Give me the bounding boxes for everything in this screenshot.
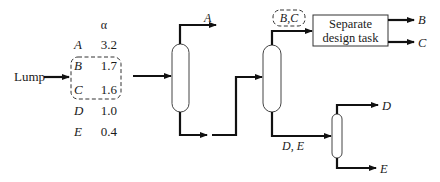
- column3-bottoms-pipe: [337, 158, 376, 168]
- alpha-header: α: [101, 18, 108, 32]
- component-name-a: A: [73, 37, 82, 52]
- component-alpha-c: 1.6: [101, 82, 118, 97]
- component-alpha-e: 0.4: [101, 124, 118, 139]
- feed-label: Lump: [14, 69, 45, 84]
- component-name-e: E: [73, 124, 82, 139]
- task-box-line1: Separate: [329, 17, 372, 31]
- component-name-b: B: [74, 58, 82, 73]
- column3-overhead-pipe: [337, 105, 378, 114]
- column2-overhead-pipe: [272, 31, 312, 45]
- column-3: [332, 114, 342, 158]
- column3-top-product: D: [381, 99, 391, 113]
- task-output-c: C: [418, 36, 427, 50]
- column2-bottom-label: D, E: [281, 139, 305, 153]
- component-alpha-b: 1.7: [101, 58, 118, 73]
- component-name-c: C: [74, 82, 83, 97]
- column-1: [172, 44, 189, 112]
- component-alpha-d: 1.0: [101, 103, 117, 118]
- column1-overhead-pipe: [180, 25, 216, 44]
- task-box-line2: design task: [323, 31, 380, 45]
- component-name-d: D: [73, 103, 84, 118]
- column3-bottom-product: E: [379, 162, 388, 176]
- column1-to-column2-pipe: [212, 77, 262, 135]
- column1-top-product: A: [203, 11, 212, 25]
- column-2: [263, 45, 281, 112]
- separation-sequence-diagram: Lump α A 3.2 B 1.7 C 1.6 D 1.0 E 0.4 A B…: [0, 0, 440, 182]
- component-alpha-a: 3.2: [101, 37, 117, 52]
- column1-bottoms-pipe: [180, 112, 207, 135]
- column2-bottoms-pipe: [272, 112, 331, 136]
- task-output-b: B: [418, 13, 426, 27]
- column2-top-label: B,C: [280, 11, 299, 25]
